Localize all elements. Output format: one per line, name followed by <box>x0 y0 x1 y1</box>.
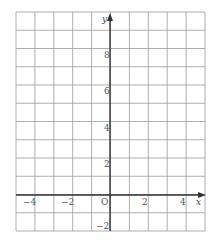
coordinate-grid: y x O −4 −2 2 4 8 6 4 2 −2 <box>0 0 218 246</box>
y-tick-label: 6 <box>104 86 110 96</box>
x-tick-label: 2 <box>142 197 148 207</box>
x-axis-label: x <box>196 197 201 207</box>
y-axis-arrow-icon <box>107 13 113 21</box>
x-tick-label: −2 <box>61 197 74 207</box>
x-tick-label: 4 <box>180 197 186 207</box>
y-tick-label: 4 <box>104 123 110 133</box>
y-tick-label: 2 <box>104 159 110 169</box>
origin-label: O <box>101 197 108 207</box>
y-axis-label: y <box>101 14 108 24</box>
x-tick-label: −4 <box>23 197 37 207</box>
y-tick-label: −2 <box>96 221 109 231</box>
y-tick-label: 8 <box>104 50 110 60</box>
